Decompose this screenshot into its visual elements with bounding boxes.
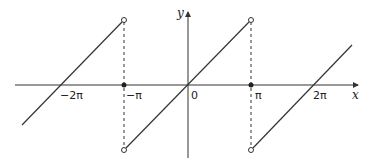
open-point-pi-top — [249, 18, 254, 23]
tick-label-neg-pi: −π — [126, 89, 142, 102]
filled-point-pi — [249, 83, 254, 88]
x-axis-label: x — [352, 88, 359, 102]
open-point-neg-pi-top — [122, 18, 127, 23]
y-axis-label: y — [176, 6, 184, 20]
segment-left — [22, 22, 122, 125]
tick-label-2pi: 2π — [313, 89, 327, 102]
tick-label-origin: 0 — [191, 89, 198, 102]
open-point-pi-bottom — [249, 148, 254, 153]
filled-point-neg-pi — [122, 83, 127, 88]
open-point-neg-pi-bottom — [122, 148, 127, 153]
segment-right — [253, 45, 352, 148]
tick-label-neg-2pi: −2π — [60, 89, 83, 102]
sawtooth-graph: −2π −π 0 π 2π x y — [0, 0, 374, 164]
tick-label-pi: π — [255, 89, 262, 102]
